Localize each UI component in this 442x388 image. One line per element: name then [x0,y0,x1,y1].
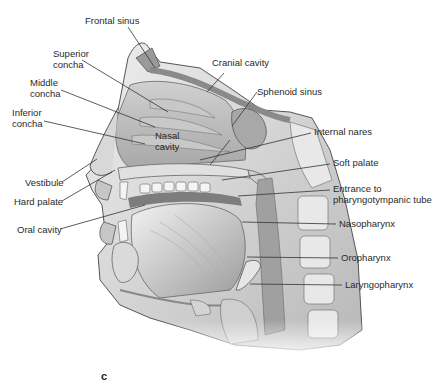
label-oral-cavity: Oral cavity [17,224,62,235]
label-superior-concha-line1: Superior [53,48,89,59]
label-inferior-concha-line1: Inferior [12,107,43,118]
label-nasal-cavity-line2: cavity [155,141,179,152]
label-vestibule: Vestibule [25,177,64,188]
label-entrance-line1: Entrance to [333,183,432,194]
bottom-fade [80,320,380,360]
label-entrance-line2: pharyngotympanic tube [333,194,432,205]
label-entrance-pharyngotympanic-tube: Entrance to pharyngotympanic tube [333,183,432,205]
label-sphenoid-sinus: Sphenoid sinus [257,86,322,97]
label-frontal-sinus: Frontal sinus [85,15,139,26]
label-middle-concha-line2: concha [30,88,61,99]
label-nasal-cavity: Nasal cavity [155,130,179,152]
label-middle-concha-line1: Middle [30,77,61,88]
panel-letter: c [101,370,107,382]
label-hard-palate: Hard palate [14,196,63,207]
label-internal-nares: Internal nares [314,126,372,137]
label-superior-concha: Superior concha [53,48,89,70]
label-oropharynx: Oropharynx [341,252,391,263]
label-superior-concha-line2: concha [53,59,89,70]
label-inferior-concha-line2: concha [12,118,43,129]
label-cranial-cavity: Cranial cavity [212,57,269,68]
anatomy-figure: Frontal sinus Superior concha Middle con… [0,0,442,388]
label-laryngopharynx: Laryngopharynx [345,279,413,290]
label-soft-palate: Soft palate [333,157,378,168]
label-nasal-cavity-line1: Nasal [155,130,179,141]
label-inferior-concha: Inferior concha [12,107,43,129]
label-middle-concha: Middle concha [30,77,61,99]
tongue-shape [131,204,245,298]
label-nasopharynx: Nasopharynx [339,218,395,229]
